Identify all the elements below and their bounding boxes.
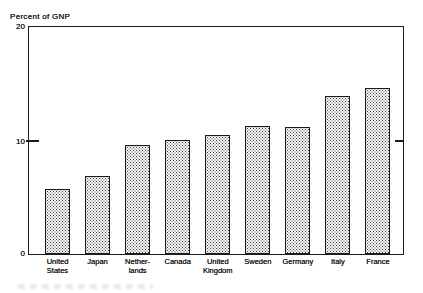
y-axis-tick-10-right (395, 140, 403, 142)
bar-france (365, 88, 390, 254)
bar-sweden (245, 126, 270, 254)
plot-area (28, 26, 404, 255)
bar-chart-figure: Percent of GNP 20 10 0 United StatesJapa… (0, 0, 423, 293)
y-tick-label-10: 10 (2, 137, 25, 146)
bar-italy (325, 96, 350, 254)
y-axis-tick-10-left (26, 140, 39, 142)
faint-print-artifact (18, 284, 153, 289)
y-tick-label-0: 0 (2, 249, 25, 258)
y-tick-label-20: 20 (2, 22, 25, 31)
bar-japan (85, 176, 110, 254)
bar-united-kingdom (205, 135, 230, 254)
bar-canada (165, 140, 190, 254)
bar-netherlands (125, 145, 150, 254)
y-axis-title: Percent of GNP (10, 12, 70, 21)
x-label-france: France (346, 257, 410, 266)
bar-united-states (45, 189, 70, 254)
bar-germany (285, 127, 310, 254)
